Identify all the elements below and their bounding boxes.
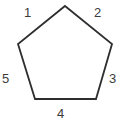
side-label-2: 2 — [94, 6, 101, 19]
side-label-5: 5 — [2, 72, 9, 85]
side-label-3: 3 — [109, 72, 116, 85]
pentagon-diagram: 1 2 3 4 5 — [0, 0, 126, 126]
side-label-1: 1 — [24, 6, 31, 19]
side-label-4: 4 — [57, 107, 64, 120]
